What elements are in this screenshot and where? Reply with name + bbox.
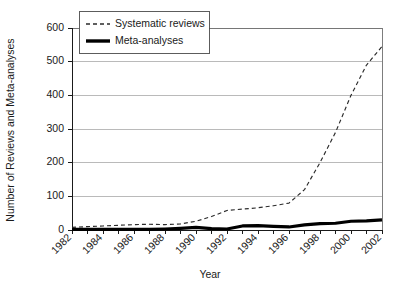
y-tick-label: 400 [46, 88, 64, 100]
x-tick-label: 1988 [141, 231, 166, 256]
legend: Systematic reviews Meta-analyses [79, 11, 209, 53]
x-tick-label: 1984 [79, 231, 104, 256]
legend-label-systematic-reviews: Systematic reviews [115, 17, 205, 29]
series-line-systematic-reviews [72, 47, 382, 228]
series-line-meta-analyses [72, 220, 382, 229]
y-tick-label: 600 [46, 21, 64, 33]
line-chart: 0100200300400500600 19821984198619881990… [0, 0, 406, 289]
x-axis: 1982198419861988199019921994199619982000… [48, 230, 383, 256]
x-tick-label: 1990 [172, 231, 197, 256]
x-tick-label: 1992 [203, 231, 228, 256]
x-tick-label: 1994 [234, 231, 259, 256]
x-tick-label: 1982 [48, 231, 73, 256]
y-tick-label: 100 [46, 189, 64, 201]
legend-label-meta-analyses: Meta-analyses [115, 34, 183, 46]
y-axis: 0100200300400500600 [46, 21, 72, 235]
y-tick-label: 500 [46, 54, 64, 66]
y-tick-label: 200 [46, 155, 64, 167]
x-axis-title: Year [199, 268, 221, 280]
chart-container: 0100200300400500600 19821984198619881990… [0, 0, 406, 289]
x-tick-label: 2002 [358, 231, 383, 256]
x-tick-label: 1996 [265, 231, 290, 256]
x-tick-label: 1998 [296, 231, 321, 256]
x-tick-label: 1986 [110, 231, 135, 256]
y-axis-title: Number of Reviews and Meta-analyses [4, 38, 16, 221]
y-tick-label: 300 [46, 122, 64, 134]
x-tick-label: 2000 [327, 231, 352, 256]
series-lines [72, 47, 382, 230]
